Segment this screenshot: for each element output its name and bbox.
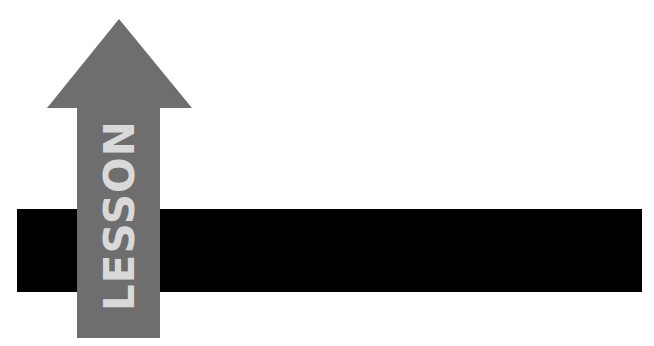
lesson-text: LESSON [95,120,144,311]
arrow-label: LESSON [79,120,159,310]
